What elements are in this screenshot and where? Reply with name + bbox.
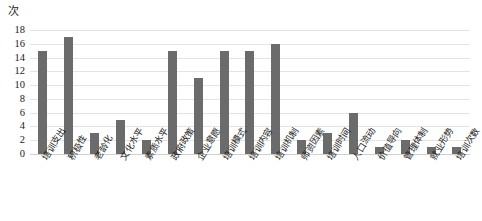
plot-area — [30, 30, 470, 154]
bar-series — [30, 30, 470, 154]
y-axis-tick: 16 — [15, 39, 26, 49]
y-axis-tick: 8 — [20, 94, 25, 104]
bar-slot — [108, 30, 134, 154]
y-axis-tick: 14 — [15, 53, 26, 63]
x-label-slot: 培训时间 — [315, 155, 341, 219]
y-axis-tick: 10 — [15, 80, 26, 90]
bar[interactable] — [168, 51, 177, 154]
x-label-slot: 文化水平 — [108, 155, 134, 219]
x-label-slot: 师资因素 — [289, 155, 315, 219]
y-axis-tick-labels: 024681012141618 — [0, 30, 28, 154]
x-label-slot: 培训机制 — [263, 155, 289, 219]
x-label-slot: 老龄化 — [82, 155, 108, 219]
x-label-slot: 政府政策 — [159, 155, 185, 219]
bar[interactable] — [271, 44, 280, 154]
x-label-slot: 企业意愿 — [185, 155, 211, 219]
x-label-slot: 管理体制 — [392, 155, 418, 219]
x-label-slot: 培训次数 — [444, 155, 470, 219]
x-label-slot: 培训内容 — [237, 155, 263, 219]
y-axis-tick: 12 — [15, 66, 26, 76]
x-label-slot: 培训模式 — [211, 155, 237, 219]
y-axis-tick: 4 — [20, 121, 25, 131]
x-label-slot: 人口流动 — [341, 155, 367, 219]
y-axis-unit-label: 次 — [8, 6, 19, 17]
bar[interactable] — [194, 78, 203, 154]
bar[interactable] — [220, 51, 229, 154]
x-axis-category-labels: 培训支出积极性老龄化文化水平素质水平政府政策企业意愿培训模式培训内容培训机制师资… — [30, 155, 470, 219]
x-label-slot: 积极性 — [56, 155, 82, 219]
x-label-slot: 就业形势 — [418, 155, 444, 219]
x-label-slot: 价值导向 — [366, 155, 392, 219]
bar[interactable] — [245, 51, 254, 154]
bar[interactable] — [64, 37, 73, 154]
y-axis-tick: 6 — [20, 108, 25, 118]
bar[interactable] — [38, 51, 47, 154]
y-axis-tick: 0 — [20, 149, 25, 159]
y-axis-tick: 18 — [15, 25, 26, 35]
x-label-slot: 培训支出 — [30, 155, 56, 219]
y-axis-tick: 2 — [20, 135, 25, 145]
x-label-slot: 素质水平 — [134, 155, 160, 219]
